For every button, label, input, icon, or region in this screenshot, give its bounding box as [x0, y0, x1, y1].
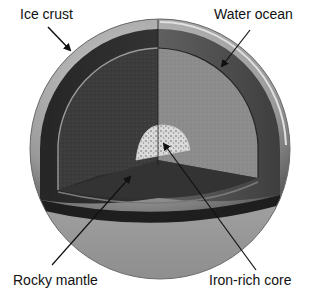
label-water-ocean: Water ocean: [214, 6, 293, 22]
label-rocky-mantle: Rocky mantle: [13, 272, 98, 288]
cutaway-diagram: [0, 0, 319, 301]
ice-crust-arrow: [48, 27, 70, 50]
label-ice-crust: Ice crust: [20, 6, 73, 22]
label-iron-core: Iron-rich core: [209, 272, 291, 288]
